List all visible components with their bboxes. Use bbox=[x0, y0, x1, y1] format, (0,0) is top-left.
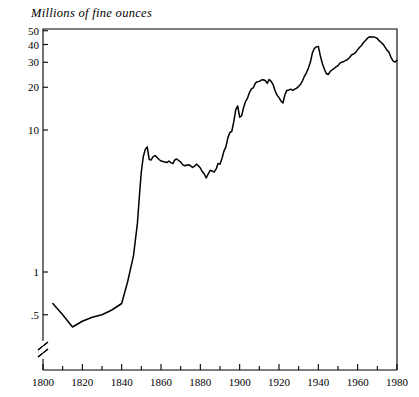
svg-text:1860: 1860 bbox=[150, 376, 173, 388]
svg-text:1840: 1840 bbox=[111, 376, 134, 388]
y-axis-ticks: 50403020101.5 bbox=[28, 25, 48, 321]
svg-text:30: 30 bbox=[28, 56, 40, 68]
svg-text:.5: .5 bbox=[31, 309, 40, 321]
svg-text:20: 20 bbox=[28, 81, 40, 93]
svg-text:1960: 1960 bbox=[347, 376, 370, 388]
data-series-group bbox=[53, 37, 397, 327]
svg-text:1: 1 bbox=[34, 266, 40, 278]
chart-canvas: 50403020101.5 18001820184018601880190019… bbox=[0, 0, 419, 397]
svg-text:1800: 1800 bbox=[32, 376, 55, 388]
svg-text:1900: 1900 bbox=[229, 376, 252, 388]
svg-text:1820: 1820 bbox=[71, 376, 94, 388]
svg-text:10: 10 bbox=[28, 124, 40, 136]
svg-text:1980: 1980 bbox=[386, 376, 409, 388]
axis-frame bbox=[43, 29, 397, 370]
x-axis-ticks: 1800182018401860188019001920194019601980 bbox=[32, 364, 409, 388]
svg-text:1940: 1940 bbox=[307, 376, 330, 388]
svg-text:1920: 1920 bbox=[268, 376, 291, 388]
svg-text:50: 50 bbox=[28, 25, 40, 37]
svg-text:40: 40 bbox=[28, 39, 40, 51]
y-axis-break-mark bbox=[38, 341, 48, 359]
svg-text:1880: 1880 bbox=[189, 376, 212, 388]
gold-production-chart: Millions of fine ounces 50403020101.5 18… bbox=[0, 0, 419, 397]
